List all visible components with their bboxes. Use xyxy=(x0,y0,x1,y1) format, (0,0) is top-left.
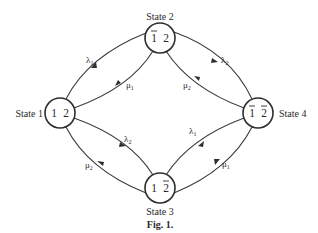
state-transition-diagram: λ1 μ1 λ2 μ2 λ2 μ2 λ1 μ1 State 2 1 2 Stat… xyxy=(0,0,318,233)
arrowhead-icon xyxy=(214,159,220,165)
rate-label-lambda2-1-3: λ2 xyxy=(124,134,131,145)
component-2: 2 xyxy=(63,107,69,119)
state-circle xyxy=(243,98,273,128)
rate-label-lambda2-2-4: λ2 xyxy=(221,55,228,66)
state-circle xyxy=(45,98,75,128)
edge-state3-to-state1 xyxy=(66,127,146,193)
state-node-1: State 1 1 2 xyxy=(16,98,76,128)
component-1: 1 xyxy=(51,107,57,119)
rate-label-lambda1-1-2: λ1 xyxy=(86,55,93,66)
component-2-failed: 2 xyxy=(163,182,169,194)
rate-label-mu2-4-2: μ2 xyxy=(183,80,191,91)
figure-caption: Fig. 1. xyxy=(147,219,174,230)
component-1-failed: 1 xyxy=(249,107,255,119)
component-2-failed: 2 xyxy=(261,107,267,119)
state-label: State 2 xyxy=(146,11,174,22)
rate-label-mu2-3-1: μ2 xyxy=(85,160,93,171)
rate-label-mu1-4-3: μ1 xyxy=(222,159,230,170)
edge-state1-to-state2 xyxy=(66,33,146,99)
component-1: 1 xyxy=(151,182,157,194)
edge-state3-to-state4 xyxy=(166,118,244,175)
rate-label-lambda1-3-4: λ1 xyxy=(189,126,196,137)
state-circle xyxy=(145,173,175,203)
component-1-failed: 1 xyxy=(151,32,157,44)
state-node-4: 1 2 State 4 xyxy=(243,98,307,128)
state-label: State 4 xyxy=(279,108,307,119)
state-node-3: 1 2 State 3 xyxy=(145,173,175,217)
rate-label-mu1-2-1: μ1 xyxy=(126,80,134,91)
edge-state4-to-state2 xyxy=(166,51,244,108)
state-label: State 1 xyxy=(16,108,44,119)
edge-state4-to-state3 xyxy=(174,127,252,193)
arrowhead-icon xyxy=(211,58,218,63)
state-node-2: State 2 1 2 xyxy=(145,11,175,53)
state-label: State 3 xyxy=(146,206,174,217)
component-2: 2 xyxy=(163,32,169,44)
arrowhead-icon xyxy=(194,76,200,81)
state-circle xyxy=(145,23,175,53)
